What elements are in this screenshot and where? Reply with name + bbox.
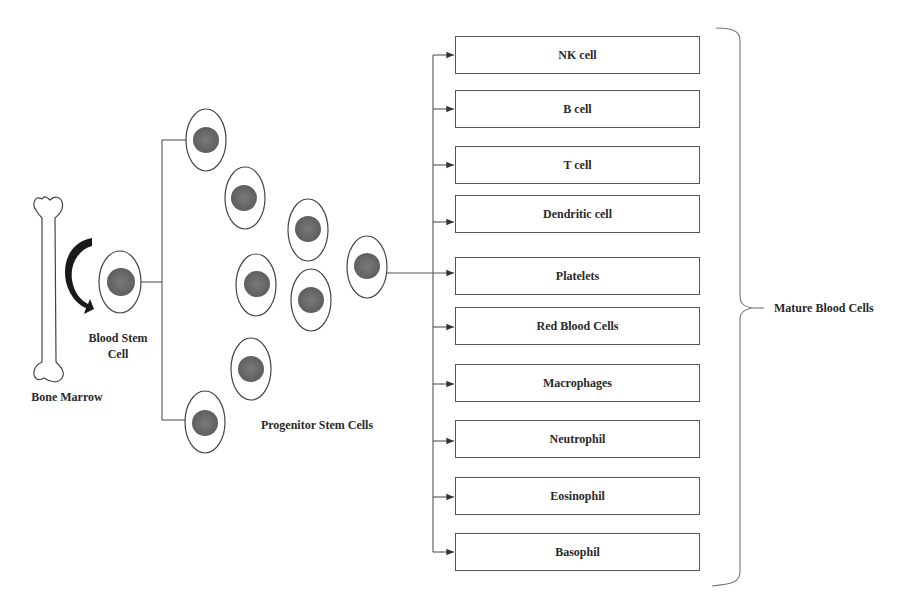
curly-brace bbox=[712, 28, 764, 586]
mature-cell-box-platelets: Platelets bbox=[455, 257, 700, 295]
progenitor-cell bbox=[236, 254, 276, 316]
mature-cell-box-red-blood-cells: Red Blood Cells bbox=[455, 307, 700, 345]
progenitor-cells bbox=[185, 109, 387, 453]
progenitor-cell bbox=[225, 167, 265, 229]
progenitor-cell bbox=[231, 338, 271, 400]
progenitor-cell bbox=[288, 199, 328, 261]
progenitor-cell bbox=[291, 269, 331, 331]
progenitor-cell bbox=[185, 391, 225, 453]
mature-cell-box-basophil: Basophil bbox=[455, 533, 700, 571]
mature-cell-box-eosinophil: Eosinophil bbox=[455, 477, 700, 515]
mature-cell-box-nk-cell: NK cell bbox=[455, 36, 700, 74]
mature-cell-box-macrophages: Macrophages bbox=[455, 364, 700, 402]
blood-stem-cell-label-line2: Cell bbox=[78, 347, 158, 362]
progenitor-cell bbox=[347, 236, 387, 298]
blood-stem-cell bbox=[99, 251, 141, 313]
progenitor-cell bbox=[186, 109, 226, 171]
blood-stem-cell-label-line1: Blood Stem bbox=[78, 331, 158, 346]
branch-lines bbox=[141, 140, 187, 420]
bone-marrow-label: Bone Marrow bbox=[22, 390, 112, 405]
mature-blood-cells-label: Mature Blood Cells bbox=[774, 301, 904, 316]
mature-cell-box-neutrophil: Neutrophil bbox=[455, 420, 700, 458]
mature-cell-box-t-cell: T cell bbox=[455, 146, 700, 184]
mature-cell-box-b-cell: B cell bbox=[455, 90, 700, 128]
hematopoiesis-diagram: Bone Marrow Blood Stem Cell Progenitor S… bbox=[0, 0, 908, 609]
diagram-graphics bbox=[0, 0, 908, 609]
progenitor-stem-cells-label: Progenitor Stem Cells bbox=[252, 418, 382, 433]
mature-connectors bbox=[387, 55, 454, 552]
mature-cell-box-dendritic-cell: Dendritic cell bbox=[455, 195, 700, 233]
bone-icon bbox=[34, 197, 63, 382]
curved-arrow-icon bbox=[65, 238, 94, 314]
